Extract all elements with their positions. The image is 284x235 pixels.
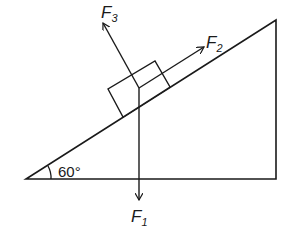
force-f1-label: F1 (131, 207, 148, 228)
force-f3-label: F3 (101, 3, 118, 24)
angle-arc (48, 166, 51, 179)
force-f3-arrow (103, 23, 139, 88)
force-f2-label: F2 (206, 33, 223, 54)
angle-label: 60° (58, 163, 81, 180)
force-diagram: 60° F1 F2 F3 (0, 0, 284, 235)
